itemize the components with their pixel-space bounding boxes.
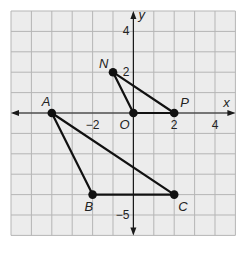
point-p — [170, 109, 179, 118]
point-label-p: P — [180, 95, 189, 110]
coordinate-plane: xy−22442−5ABCNOP — [0, 0, 250, 253]
y-tick-label: 2 — [123, 65, 130, 79]
y-tick-label: −5 — [116, 208, 130, 222]
x-axis-label: x — [222, 95, 230, 110]
point-n — [109, 68, 118, 77]
x-tick-label: 2 — [171, 118, 178, 132]
x-tick-label: −2 — [86, 118, 100, 132]
point-a — [48, 109, 57, 118]
y-tick-label: 4 — [123, 24, 130, 38]
point-label-n: N — [99, 56, 109, 71]
point-label-b: B — [85, 199, 94, 214]
point-label-a: A — [41, 94, 51, 109]
point-label-c: C — [178, 199, 188, 214]
point-o — [129, 109, 138, 118]
point-label-o: O — [119, 117, 129, 132]
x-tick-label: 4 — [212, 118, 219, 132]
